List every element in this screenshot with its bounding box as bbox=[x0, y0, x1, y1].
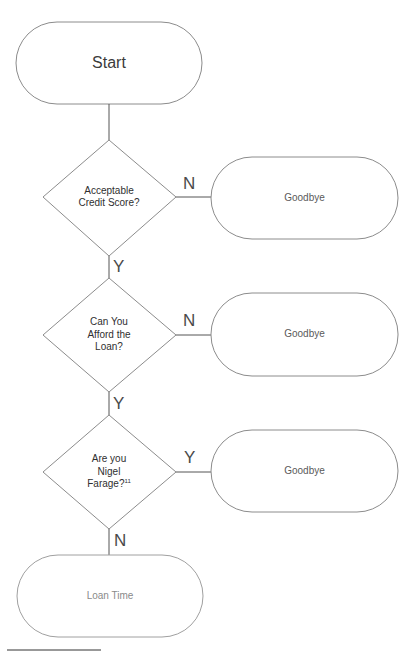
edge-label-exit-2: N bbox=[183, 312, 195, 329]
start-label: Start bbox=[16, 22, 202, 104]
edge-label-down-2: Y bbox=[113, 395, 124, 412]
decision-label-2: Can You Afford the Loan? bbox=[55, 305, 163, 365]
decision-3-line-2: Nigel bbox=[98, 466, 121, 479]
exit-label-3: Goodbye bbox=[211, 430, 398, 512]
footnote-marker: 11 bbox=[125, 478, 131, 484]
decision-3-line-3-text: Farage? bbox=[87, 478, 124, 489]
decision-label-1: Acceptable Credit Score? bbox=[55, 170, 163, 224]
decision-2-line-3: Loan? bbox=[95, 341, 123, 354]
end-label: Loan Time bbox=[17, 555, 203, 637]
decision-2-line-2: Afford the bbox=[87, 329, 130, 342]
decision-3-line-3: Farage?11 bbox=[87, 478, 130, 491]
edge-label-down-1: Y bbox=[113, 258, 124, 275]
decision-3-line-1: Are you bbox=[92, 453, 126, 466]
decision-1-line-1: Acceptable bbox=[84, 185, 133, 198]
edge-label-exit-3: Y bbox=[184, 449, 195, 466]
decision-label-3: Are you Nigel Farage?11 bbox=[55, 442, 163, 502]
edge-label-exit-1: N bbox=[183, 175, 195, 192]
decision-1-line-2: Credit Score? bbox=[78, 197, 139, 210]
edge-label-down-3: N bbox=[114, 532, 126, 549]
exit-label-1: Goodbye bbox=[211, 157, 398, 239]
decision-2-line-1: Can You bbox=[90, 316, 128, 329]
exit-label-2: Goodbye bbox=[211, 293, 398, 376]
